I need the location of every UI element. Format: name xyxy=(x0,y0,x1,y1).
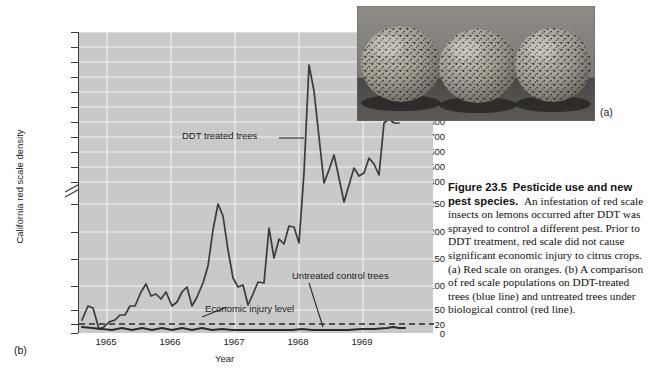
panel-label-a: (a) xyxy=(600,106,613,118)
y-tick-mark xyxy=(71,92,78,93)
leader-line-untreated xyxy=(309,283,323,327)
y-axis-title: California red scale density xyxy=(14,92,25,282)
y-tick-mark xyxy=(71,286,78,287)
panel-label-b: (b) xyxy=(14,344,27,356)
y-tick-mark xyxy=(71,333,78,334)
x-axis-title: Year xyxy=(215,353,234,364)
orange-photo-image xyxy=(357,6,595,121)
y-tick-mark xyxy=(71,204,78,205)
y-tick-mark xyxy=(71,32,78,33)
figure-caption: Figure 23.5 Pesticide use and new pest s… xyxy=(448,181,653,317)
y-tick-mark xyxy=(71,137,78,138)
x-tick-label-1966: 1966 xyxy=(148,336,192,347)
series-ddt-treated-line xyxy=(82,65,399,329)
caption-figure-number: Figure 23.5 xyxy=(448,181,507,193)
y-tick-mark xyxy=(71,259,78,260)
y-tick-mark xyxy=(71,62,78,63)
annotation-ddt-treated-trees: DDT treated trees xyxy=(182,130,257,141)
y-tick-mark xyxy=(71,167,78,168)
figure-root: California red scale density 1,400 1,300… xyxy=(0,0,661,392)
photo-red-scale-on-oranges xyxy=(357,6,595,121)
y-tick-mark xyxy=(71,122,78,123)
x-tick-label-1968: 1968 xyxy=(276,336,320,347)
x-tick-label-1967: 1967 xyxy=(212,336,256,347)
y-tick-mark xyxy=(71,324,78,325)
y-tick-mark xyxy=(71,77,78,78)
x-tick-label-1969: 1969 xyxy=(340,336,384,347)
series-untreated-control-line xyxy=(82,327,405,330)
x-tick-label-1965: 1965 xyxy=(84,336,128,347)
annotation-untreated-control-trees: Untreated control trees xyxy=(292,270,389,281)
annotation-economic-injury-level: Economic injury level xyxy=(205,303,294,314)
y-tick-mark xyxy=(71,232,78,233)
y-tick-mark xyxy=(71,152,78,153)
caption-body: An infestation of red scale insects on l… xyxy=(448,195,643,316)
y-tick-mark xyxy=(71,47,78,48)
y-tick-mark xyxy=(71,310,78,311)
y-tick-mark xyxy=(71,107,78,108)
